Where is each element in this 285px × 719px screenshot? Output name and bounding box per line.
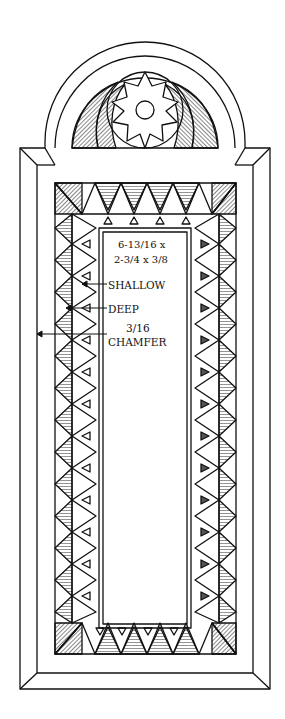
callout-deep: DEEP (108, 303, 139, 315)
callout-shallow: SHALLOW (108, 279, 165, 291)
lunette-carving (72, 72, 218, 148)
dimension-line-2: 2-3/4 x 3/8 (114, 254, 168, 266)
callout-chamfer-size: 3/16 (126, 322, 150, 334)
panel-drawing (0, 0, 285, 719)
dimension-line-1: 6-13/16 x (118, 239, 165, 251)
callout-chamfer-label: CHAMFER (108, 336, 166, 348)
